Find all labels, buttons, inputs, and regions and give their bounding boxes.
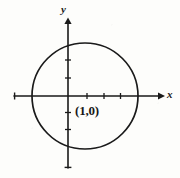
circle-center-point-label: (1,0) <box>75 104 99 117</box>
math-figure-circle-plot: y x (1,0) <box>0 0 180 178</box>
x-axis-arrowhead <box>158 92 165 99</box>
x-axis-group <box>14 92 165 99</box>
x-axis-label: x <box>167 89 173 100</box>
y-axis-arrowhead <box>64 18 71 25</box>
coordinate-plane-svg <box>0 0 180 178</box>
y-axis-label: y <box>61 4 66 15</box>
